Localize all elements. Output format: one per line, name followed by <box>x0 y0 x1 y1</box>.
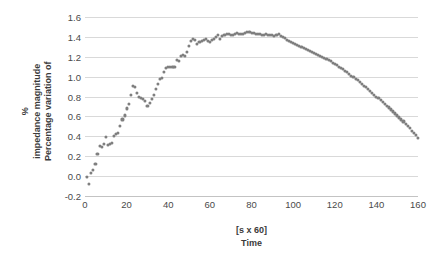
y-tick-label: 1.0 <box>55 71 81 82</box>
data-point <box>160 76 163 79</box>
gridline <box>85 77 418 78</box>
x-tick-label: 0 <box>82 199 87 210</box>
data-point <box>94 163 97 166</box>
y-tick-label: 1.2 <box>55 51 81 62</box>
data-point <box>163 70 166 73</box>
data-point <box>154 87 157 90</box>
data-point <box>100 146 103 149</box>
x-axis-title: [s x 60] Time <box>85 224 418 250</box>
x-tick-label: 120 <box>327 199 343 210</box>
gridline <box>85 136 418 137</box>
x-tick-label: 40 <box>163 199 174 210</box>
y-axis-title-line-2: impedance magnitude <box>31 63 43 158</box>
data-point <box>111 142 114 145</box>
data-point <box>102 143 105 146</box>
data-point <box>121 118 124 121</box>
x-axis-title-line-2: Time <box>85 237 418 250</box>
data-point <box>86 176 89 179</box>
data-point <box>219 37 222 40</box>
data-point <box>148 101 151 104</box>
gridline <box>85 196 418 197</box>
data-point <box>156 82 159 85</box>
data-point <box>117 132 120 135</box>
y-axis-title-line-3: % <box>20 107 32 115</box>
x-tick-label: 160 <box>410 199 426 210</box>
y-tick-label: 0.2 <box>55 151 81 162</box>
data-point <box>173 65 176 68</box>
y-tick-label: 0.8 <box>55 91 81 102</box>
data-point <box>133 85 136 88</box>
y-tick-label: 0.6 <box>55 111 81 122</box>
data-point <box>144 99 147 102</box>
y-tick-label: 0.4 <box>55 131 81 142</box>
gridline <box>85 156 418 157</box>
x-tick-label: 60 <box>205 199 216 210</box>
data-point <box>146 104 149 107</box>
x-axis-title-line-1: [s x 60] <box>85 224 418 237</box>
y-axis-title: Percentage variation of impedance magnit… <box>14 26 60 196</box>
y-axis-tick-labels: -0.20.00.20.40.60.81.01.21.41.6 <box>55 17 81 196</box>
data-point <box>194 38 197 41</box>
x-axis-tick-labels: 020406080100120140160 <box>85 199 418 215</box>
data-point <box>150 97 153 100</box>
data-point <box>92 169 95 172</box>
y-tick-label: 0.0 <box>55 171 81 182</box>
gridline <box>85 97 418 98</box>
y-tick-label: -0.2 <box>55 191 81 202</box>
data-point <box>127 102 130 105</box>
data-point <box>185 50 188 53</box>
data-point <box>416 137 419 140</box>
gridline <box>85 57 418 58</box>
data-point <box>177 59 180 62</box>
scatter-chart: Percentage variation of impedance magnit… <box>0 0 431 271</box>
data-point <box>125 107 128 110</box>
plot-area <box>85 17 418 196</box>
data-point <box>135 91 138 94</box>
gridline <box>85 116 418 117</box>
y-tick-label: 1.4 <box>55 31 81 42</box>
data-point <box>104 136 107 139</box>
data-point <box>188 44 191 47</box>
y-axis-title-line-1: Percentage variation of <box>43 61 55 161</box>
gridline <box>85 37 418 38</box>
gridline <box>85 17 418 18</box>
data-point <box>88 183 91 186</box>
data-point <box>119 125 122 128</box>
gridline <box>85 176 418 177</box>
x-tick-label: 100 <box>285 199 301 210</box>
x-tick-label: 80 <box>246 199 257 210</box>
data-point <box>90 172 93 175</box>
x-tick-label: 140 <box>368 199 384 210</box>
x-tick-label: 20 <box>121 199 132 210</box>
y-tick-label: 1.6 <box>55 12 81 23</box>
